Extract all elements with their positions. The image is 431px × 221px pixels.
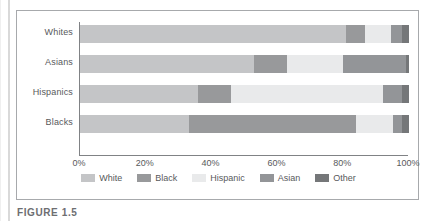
figure-frame: WhitesAsiansHispanicsBlacks 0%20%40%60%8…	[16, 10, 419, 200]
bar-segment-blacks-hispanic	[356, 115, 392, 133]
legend-item-other: Other	[315, 173, 356, 183]
bar-segment-blacks-asian	[393, 115, 403, 133]
legend-item-white: White	[81, 173, 122, 183]
bar-segment-hispanics-hispanic	[231, 85, 382, 103]
bar-segment-whites-other	[402, 25, 409, 43]
bar-row: Blacks	[17, 115, 420, 133]
legend-label-black: Black	[155, 173, 177, 183]
legend-swatch-other	[315, 174, 329, 182]
bar-segment-blacks-white	[80, 115, 189, 133]
bar-segment-asians-black	[254, 55, 287, 73]
legend-label-hispanic: Hispanic	[210, 173, 245, 183]
bar-row: Whites	[17, 25, 420, 43]
bar-segment-blacks-black	[189, 115, 357, 133]
bar-category-label-hispanics: Hispanics	[17, 87, 73, 97]
figure-caption: FIGURE 1.5	[17, 207, 77, 218]
bar-segment-hispanics-black	[198, 85, 231, 103]
bar-segment-asians-white	[80, 55, 254, 73]
x-axis-line	[79, 155, 408, 156]
bar-row: Asians	[17, 55, 420, 73]
bar-track	[80, 55, 409, 73]
bar-segment-hispanics-other	[402, 85, 409, 103]
x-axis-tick-label: 60%	[267, 158, 285, 168]
legend-item-hispanic: Hispanic	[192, 173, 245, 183]
legend-item-black: Black	[137, 173, 177, 183]
x-axis-tick-label: 20%	[136, 158, 154, 168]
bar-track	[80, 115, 409, 133]
bar-segment-whites-hispanic	[365, 25, 391, 43]
bar-segment-asians-asian	[343, 55, 406, 73]
legend-swatch-hispanic	[192, 174, 206, 182]
x-axis-tick-label: 40%	[202, 158, 220, 168]
legend-label-white: White	[99, 173, 122, 183]
bar-category-label-whites: Whites	[17, 27, 73, 37]
x-axis-tick-label: 100%	[396, 158, 419, 168]
legend-swatch-white	[81, 174, 95, 182]
bar-category-label-asians: Asians	[17, 57, 73, 67]
legend-label-other: Other	[333, 173, 356, 183]
bar-track	[80, 25, 409, 43]
bar-segment-hispanics-white	[80, 85, 198, 103]
bar-segment-hispanics-asian	[383, 85, 403, 103]
stacked-bar-chart: WhitesAsiansHispanicsBlacks 0%20%40%60%8…	[17, 11, 420, 163]
page-scan-edge-outer	[0, 0, 1, 221]
bar-segment-whites-white	[80, 25, 346, 43]
legend-swatch-asian	[260, 174, 274, 182]
bar-segment-asians-hispanic	[287, 55, 343, 73]
legend-item-asian: Asian	[260, 173, 301, 183]
x-axis-tick-label: 0%	[72, 158, 85, 168]
x-axis-tick-label: 80%	[333, 158, 351, 168]
bar-segment-asians-other	[406, 55, 409, 73]
bar-row: Hispanics	[17, 85, 420, 103]
legend-swatch-black	[137, 174, 151, 182]
chart-legend: WhiteBlackHispanicAsianOther	[17, 170, 420, 186]
legend-label-asian: Asian	[278, 173, 301, 183]
bar-track	[80, 85, 409, 103]
page-scan-edge	[8, 0, 10, 221]
bar-category-label-blacks: Blacks	[17, 117, 73, 127]
bar-segment-whites-black	[346, 25, 364, 43]
bar-segment-whites-asian	[391, 25, 403, 43]
bar-segment-blacks-other	[402, 115, 409, 133]
